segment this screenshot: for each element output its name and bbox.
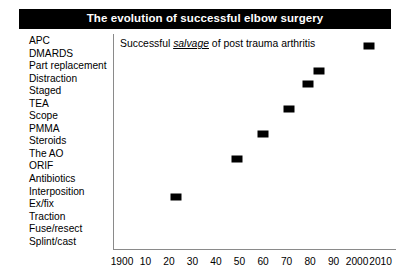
x-axis-tick-label: 90 [328, 256, 339, 268]
annotation-emphasis: salvage [173, 38, 209, 49]
category-label: Ex/fix [29, 198, 111, 211]
category-label: TEA [29, 98, 111, 111]
data-point-marker [302, 80, 313, 87]
x-axis-tick-label: 20 [163, 256, 174, 268]
category-label: Traction [29, 211, 111, 224]
category-label: The AO [29, 148, 111, 161]
scatter-plot: Successful salvage of post trauma arthri… [113, 34, 396, 250]
x-axis-tick-label: 1900 [111, 256, 134, 268]
y-axis-line [113, 34, 114, 250]
category-label: Steroids [29, 135, 111, 148]
data-point-marker [232, 156, 243, 163]
x-axis-tick-label: 60 [257, 256, 268, 268]
category-label: PMMA [29, 123, 111, 136]
annotation-suffix: of post trauma arthritis [209, 38, 315, 49]
x-axis-tick-label: 2000 [346, 256, 369, 268]
x-axis-tick-label: 10 [140, 256, 151, 268]
x-axis-line [113, 249, 396, 250]
category-label: Interposition [29, 186, 111, 199]
x-axis-tick-label: 70 [281, 256, 292, 268]
category-label-list: APCDMARDSPart replacementDistractionStag… [29, 35, 111, 248]
data-point-marker [314, 68, 325, 75]
x-axis-tick-label: 80 [304, 256, 315, 268]
data-point-marker [363, 43, 374, 50]
x-axis-tick-label: 30 [187, 256, 198, 268]
category-label: DMARDS [29, 48, 111, 61]
category-label: Antibiotics [29, 173, 111, 186]
slide-title-bar: The evolution of successful elbow surger… [19, 9, 391, 29]
x-axis-tick-label: 50 [234, 256, 245, 268]
data-point-marker [171, 193, 182, 200]
category-label: Distraction [29, 73, 111, 86]
slide-canvas: The evolution of successful elbow surger… [0, 0, 410, 280]
category-label: APC [29, 35, 111, 48]
x-axis-tick-label: 40 [210, 256, 221, 268]
category-label: ORIF [29, 160, 111, 173]
data-point-marker [283, 106, 294, 113]
annotation-prefix: Successful [120, 38, 173, 49]
category-label: Part replacement [29, 60, 111, 73]
slide-title: The evolution of successful elbow surger… [87, 13, 324, 25]
x-axis-tick-label: 2010 [369, 256, 392, 268]
plot-annotation: Successful salvage of post trauma arthri… [120, 38, 315, 49]
category-label: Scope [29, 110, 111, 123]
category-label: Staged [29, 85, 111, 98]
category-label: Splint/cast [29, 236, 111, 249]
category-label: Fuse/resect [29, 223, 111, 236]
x-axis-tick-labels: 190010203040506070809020002010 [113, 256, 403, 270]
data-point-marker [258, 131, 269, 138]
